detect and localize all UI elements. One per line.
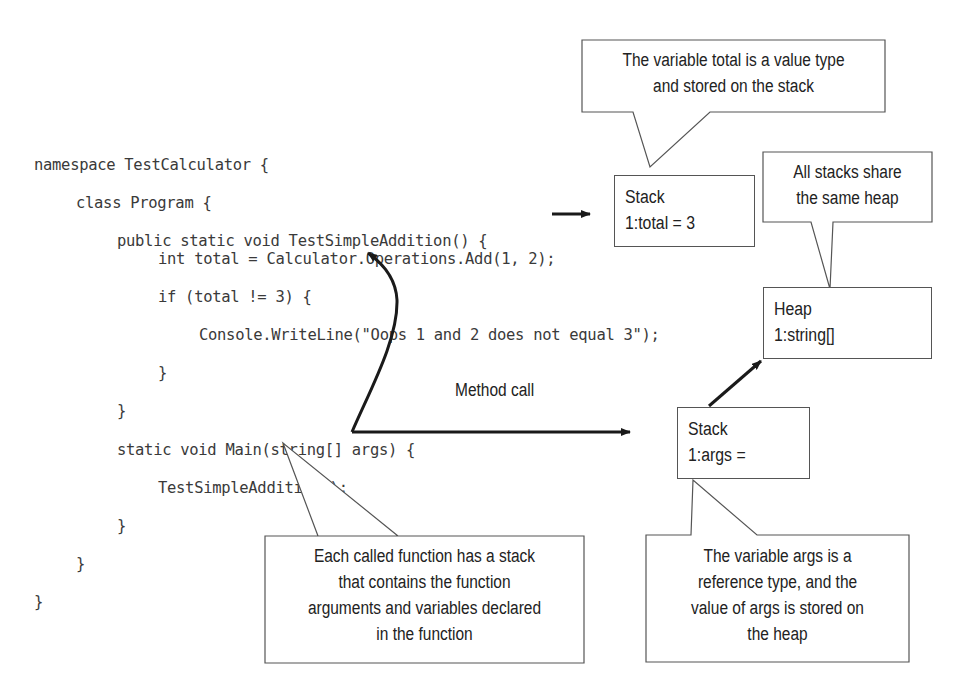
callout-shared-heap-text: All stacks share the same heap: [763, 159, 932, 211]
callout-line: in the function: [287, 621, 561, 647]
callout-line: the heap: [664, 621, 890, 647]
heap-box-entry: 1:string[]: [774, 322, 912, 348]
stack-box-total: Stack 1:total = 3: [614, 175, 755, 247]
callout-line: The variable args is a: [664, 543, 890, 569]
callout-reference-type-text: The variable args is a reference type, a…: [646, 543, 909, 647]
callout-line: All stacks share: [775, 159, 920, 185]
heap-box-title: Heap: [774, 296, 912, 322]
callout-line: reference type, and the: [664, 569, 890, 595]
callout-line: Each called function has a stack: [287, 543, 561, 569]
callout-line: The variable total is a value type: [603, 47, 864, 73]
callout-line: and stored on the stack: [603, 73, 864, 99]
stack-box-title: Stack: [688, 416, 794, 442]
stack-box-args: Stack 1:args =: [677, 407, 810, 479]
arrow-stack-to-heap: [709, 361, 761, 406]
callout-line: arguments and variables declared: [287, 595, 561, 621]
callout-line: that contains the function: [287, 569, 561, 595]
stack-box-entry: 1:args =: [688, 442, 794, 468]
heap-box: Heap 1:string[]: [763, 287, 932, 359]
stack-box-title: Stack: [625, 184, 739, 210]
callout-function-stack-text: Each called function has a stack that co…: [265, 543, 584, 647]
callout-line: value of args is stored on: [664, 595, 890, 621]
stack-box-entry: 1:total = 3: [625, 210, 739, 236]
method-call-label: Method call: [455, 380, 534, 401]
callout-value-type-text: The variable total is a value type and s…: [582, 47, 885, 99]
callout-line: the same heap: [775, 185, 920, 211]
arrow-method-call-return: [352, 253, 397, 432]
